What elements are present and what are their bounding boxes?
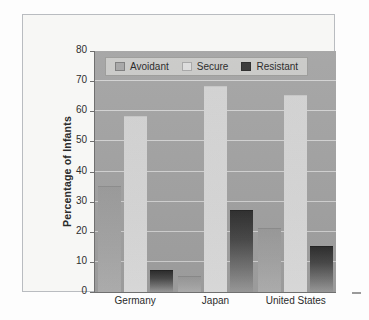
y-axis-tick-mark xyxy=(90,262,94,263)
bar-avoidant-germany xyxy=(98,186,121,292)
bar-secure-japan xyxy=(204,86,227,292)
legend-label: Secure xyxy=(197,61,229,72)
bar-secure-united-states xyxy=(284,95,307,292)
legend-swatch-avoidant-icon xyxy=(115,62,125,71)
y-axis-tick-mark xyxy=(90,232,94,233)
legend-label: Avoidant xyxy=(130,61,169,72)
bar-avoidant-united-states xyxy=(258,228,281,292)
gridline xyxy=(95,80,336,81)
chart-legend: AvoidantSecureResistant xyxy=(105,57,308,76)
bar-secure-germany xyxy=(124,116,147,292)
legend-item-resistant[interactable]: Resistant xyxy=(241,61,298,72)
y-axis-tick-label: 0 xyxy=(47,285,87,296)
x-axis-tick-label: Japan xyxy=(175,295,255,306)
y-axis-tick-label: 80 xyxy=(47,44,87,55)
plot-area: AvoidantSecureResistant xyxy=(95,51,336,292)
legend-label: Resistant xyxy=(256,61,298,72)
y-axis-tick-label: 30 xyxy=(47,195,87,206)
chart-figure-frame: Percentage of Infants AvoidantSecureResi… xyxy=(22,14,335,292)
x-axis-tick-label: Germany xyxy=(95,295,175,306)
bar-resistant-united-states xyxy=(310,246,333,292)
legend-item-avoidant[interactable]: Avoidant xyxy=(115,61,169,72)
corner-dash-mark xyxy=(352,292,361,294)
x-axis-line xyxy=(95,292,336,293)
y-axis-tick-mark xyxy=(90,51,94,52)
y-axis-tick-mark xyxy=(90,202,94,203)
y-axis-tick-mark xyxy=(90,292,94,293)
y-axis-tick-mark xyxy=(90,172,94,173)
y-axis-tick-mark xyxy=(90,111,94,112)
y-axis-tick-label: 60 xyxy=(47,104,87,115)
legend-swatch-resistant-icon xyxy=(241,62,251,71)
y-axis-tick-label: 50 xyxy=(47,134,87,145)
legend-item-secure[interactable]: Secure xyxy=(182,61,229,72)
bar-resistant-germany xyxy=(150,270,173,292)
y-axis-tick-label: 20 xyxy=(47,225,87,236)
y-axis-tick-mark xyxy=(90,141,94,142)
x-axis-tick-label: United States xyxy=(256,295,336,306)
bar-resistant-japan xyxy=(230,210,253,292)
bar-avoidant-japan xyxy=(178,276,201,292)
y-axis-tick-label: 40 xyxy=(47,165,87,176)
y-axis-tick-label: 10 xyxy=(47,255,87,266)
y-axis-tick-label: 70 xyxy=(47,74,87,85)
y-axis-tick-mark xyxy=(90,81,94,82)
legend-swatch-secure-icon xyxy=(182,62,192,71)
